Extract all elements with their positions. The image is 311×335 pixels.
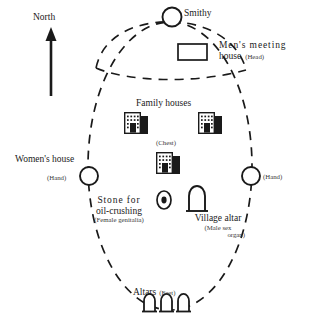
oil-crushing-stone-icon bbox=[157, 191, 171, 209]
village-altar-label: Village altar (Male sex organ) bbox=[183, 213, 253, 239]
altar-icon bbox=[176, 294, 191, 312]
mens-meeting-house-rect-icon bbox=[178, 44, 207, 60]
right-hand-circle-icon bbox=[242, 167, 260, 185]
village-plan-diagram: North Smithy Men's meeting house (Head) … bbox=[0, 0, 311, 335]
altars-label: Altars (Feet) bbox=[133, 287, 175, 298]
smithy-circle-icon bbox=[163, 8, 182, 27]
mens-meeting-house-label-line2-text: house bbox=[219, 51, 241, 62]
right-hand-body-part: (Hand) bbox=[263, 173, 282, 181]
village-altar-body-part-line1: (Male sex bbox=[183, 224, 253, 232]
north-label: North bbox=[33, 12, 55, 23]
village-boundary-inner-base bbox=[96, 68, 246, 80]
village-altar-icon bbox=[186, 186, 208, 211]
family-houses-label: Family houses bbox=[136, 98, 191, 109]
family-house-building-icon bbox=[156, 152, 180, 174]
family-house-building-icon bbox=[198, 112, 222, 134]
oil-crushing-stone-label-line2: oil-crushing bbox=[80, 206, 158, 217]
village-altar-body-part-line2: organ) bbox=[183, 231, 253, 239]
womens-house-circle-icon bbox=[80, 167, 98, 185]
family-house-building-icon bbox=[124, 112, 148, 134]
oil-crushing-stone-body-part: (Female genitalia) bbox=[80, 216, 158, 224]
village-altar-label-text: Village altar bbox=[183, 213, 253, 224]
mens-meeting-house-label-line2: house (Head) bbox=[219, 51, 287, 62]
mens-meeting-house-body-part: (Head) bbox=[245, 53, 264, 61]
altars-body-part: (Feet) bbox=[159, 289, 175, 297]
oil-crushing-stone-label-line1: Stone for bbox=[80, 195, 158, 206]
altars-label-text: Altars bbox=[133, 287, 156, 298]
mens-meeting-house-label: Men's meeting house (Head) bbox=[219, 40, 287, 61]
oil-crushing-stone-label: Stone for oil-crushing (Female genitalia… bbox=[80, 195, 158, 224]
womens-house-label: Women's house bbox=[15, 154, 74, 165]
family-houses-body-part: (Chest) bbox=[156, 139, 176, 147]
smithy-label: Smithy bbox=[184, 8, 211, 19]
womens-house-body-part: (Hand) bbox=[47, 174, 66, 182]
mens-meeting-house-label-line1: Men's meeting bbox=[219, 40, 287, 51]
north-arrow-icon bbox=[46, 27, 57, 96]
